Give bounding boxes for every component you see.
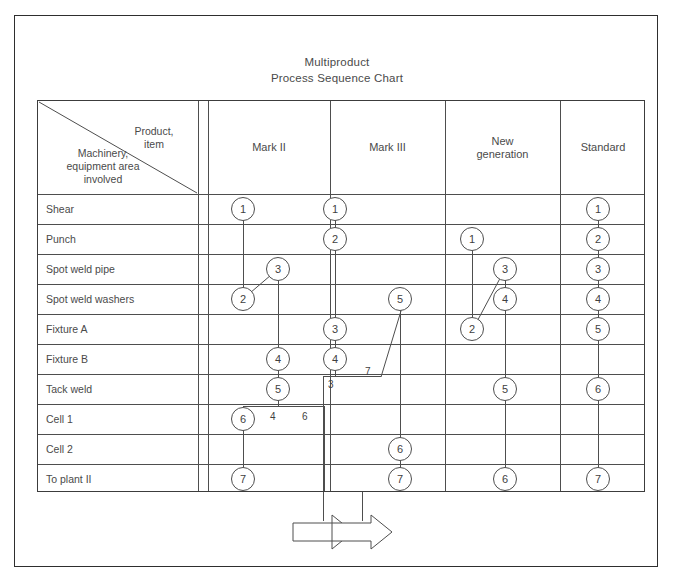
mark3-bracket-left <box>323 376 324 491</box>
column-header-mark2: Mark II <box>208 101 330 194</box>
newgen-node-5[interactable]: 5 <box>493 377 517 401</box>
node-step: 1 <box>332 203 338 215</box>
standard-node-7[interactable]: 7 <box>586 467 610 491</box>
node-step: 7 <box>595 473 601 485</box>
node-step: 5 <box>595 323 601 335</box>
standard-node-2[interactable]: 2 <box>586 227 610 251</box>
corner-machinery-label: Machinery, equipment area involved <box>44 147 162 186</box>
mark3-node-7[interactable]: 7 <box>388 467 412 491</box>
mark3-node-3[interactable]: 3 <box>323 317 347 341</box>
mark3-bracket-top <box>323 376 381 377</box>
mark3-node-2[interactable]: 2 <box>323 227 347 251</box>
column-header-mark3-line1: Mark III <box>369 141 406 153</box>
standard-node-4[interactable]: 4 <box>586 287 610 311</box>
process-sequence-table: Product, item Machinery, equipment area … <box>37 100 645 492</box>
row-label-punch: Punch <box>46 224 76 254</box>
node-step: 7 <box>240 473 246 485</box>
mark3-node-5[interactable]: 5 <box>388 287 412 311</box>
newgen-node-3[interactable]: 3 <box>493 257 517 281</box>
column-header-mark2-line1: Mark II <box>252 141 286 153</box>
node-step: 3 <box>332 323 338 335</box>
standard-node-1[interactable]: 1 <box>586 197 610 221</box>
standard-node-6[interactable]: 6 <box>586 377 610 401</box>
row-label-text: To plant II <box>46 473 92 485</box>
node-step: 2 <box>469 323 475 335</box>
row-label-text: Spot weld pipe <box>46 263 115 275</box>
node-step: 1 <box>469 233 475 245</box>
title-line-1: Multiproduct <box>15 54 659 70</box>
node-step: 3 <box>275 263 281 275</box>
column-header-mark3: Mark III <box>330 101 445 194</box>
column-header-newgen-line1: New <box>491 135 513 147</box>
rule-header-bottom <box>38 194 644 195</box>
node-step: 2 <box>595 233 601 245</box>
node-step: 3 <box>502 263 508 275</box>
node-step: 4 <box>595 293 601 305</box>
mark3-node-4[interactable]: 4 <box>323 347 347 371</box>
row-label-text: Fixture B <box>46 353 88 365</box>
row-label-text: Cell 1 <box>46 413 73 425</box>
mark3-node-6[interactable]: 6 <box>388 437 412 461</box>
rule-row-5 <box>38 344 644 345</box>
mark2-node-3[interactable]: 3 <box>266 257 290 281</box>
node-step: 2 <box>332 233 338 245</box>
corner-product-line-1: Product, <box>134 125 173 137</box>
mark3-node-1[interactable]: 1 <box>323 197 347 221</box>
page-title: Multiproduct Process Sequence Chart <box>15 54 659 86</box>
column-header-standard: Standard <box>560 101 646 194</box>
mark3-annotation-3: 3 <box>328 379 334 390</box>
mark2-node-2[interactable]: 2 <box>231 287 255 311</box>
newgen-node-4[interactable]: 4 <box>493 287 517 311</box>
standard-node-5[interactable]: 5 <box>586 317 610 341</box>
newgen-node-1[interactable]: 1 <box>460 227 484 251</box>
row-label-spot-washers: Spot weld washers <box>46 284 134 314</box>
column-header-standard-line1: Standard <box>581 141 626 153</box>
rule-row-2 <box>38 254 644 255</box>
newgen-link-5-6 <box>505 389 506 479</box>
newgen-node-6[interactable]: 6 <box>493 467 517 491</box>
chart-page: Multiproduct Process Sequence Chart <box>0 0 676 588</box>
standard-node-3[interactable]: 3 <box>586 257 610 281</box>
corner-header: Product, item Machinery, equipment area … <box>38 101 198 194</box>
rule-row-4 <box>38 314 644 315</box>
row-label-text: Cell 2 <box>46 443 73 455</box>
mark2-node-7[interactable]: 7 <box>231 467 255 491</box>
node-step: 4 <box>275 353 281 365</box>
row-label-cell-1: Cell 1 <box>46 404 73 434</box>
mark2-link-3-4 <box>278 269 279 359</box>
node-step: 1 <box>595 203 601 215</box>
node-step: 1 <box>240 203 246 215</box>
row-label-fixture-b: Fixture B <box>46 344 88 374</box>
node-step: 6 <box>240 413 246 425</box>
row-label-text: Spot weld washers <box>46 293 134 305</box>
node-step: 4 <box>502 293 508 305</box>
row-label-fixture-a: Fixture A <box>46 314 87 344</box>
node-step: 5 <box>502 383 508 395</box>
mark2-cell1-bracket-top <box>243 406 324 407</box>
mark2-node-5[interactable]: 5 <box>266 377 290 401</box>
node-step: 5 <box>275 383 281 395</box>
column-header-newgen-line2: generation <box>477 148 529 160</box>
row-label-text: Tack weld <box>46 383 92 395</box>
page-frame: Multiproduct Process Sequence Chart <box>14 15 658 567</box>
row-label-tack-weld: Tack weld <box>46 374 92 404</box>
node-step: 6 <box>595 383 601 395</box>
rule-row-7 <box>38 404 644 405</box>
row-label-text: Fixture A <box>46 323 87 335</box>
newgen-node-2[interactable]: 2 <box>460 317 484 341</box>
mark2-cell1-bracket-right <box>324 406 325 491</box>
mark2-node-1[interactable]: 1 <box>231 197 255 221</box>
mark2-annotation-4: 4 <box>270 411 276 422</box>
ship-arrow-mark3[interactable] <box>331 514 393 550</box>
corner-machinery-line-3: involved <box>84 173 123 185</box>
node-step: 4 <box>332 353 338 365</box>
node-step: 3 <box>595 263 601 275</box>
corner-machinery-line-1: Machinery, <box>78 147 129 159</box>
mark2-node-4[interactable]: 4 <box>266 347 290 371</box>
row-label-spot-pipe: Spot weld pipe <box>46 254 115 284</box>
row-label-shear: Shear <box>46 194 74 224</box>
node-step: 2 <box>240 293 246 305</box>
node-step: 7 <box>397 473 403 485</box>
rule-row-9 <box>38 464 644 465</box>
mark2-node-6[interactable]: 6 <box>231 407 255 431</box>
